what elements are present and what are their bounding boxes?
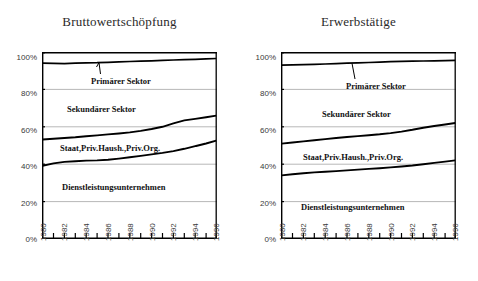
x-tick-1996-right: 1996 <box>451 223 460 241</box>
y-axis-labels-right: 0% 20% 40% 60% 80% 100% <box>239 52 279 239</box>
plot-area-left: Primärer Sektor Sekundärer Sektor Staat,… <box>42 52 217 239</box>
y-tick-80: 80% <box>21 89 37 98</box>
chart-figure: Bruttowertschöpfung 0% 20% 40% 60% 80% 1… <box>0 0 478 281</box>
x-tick-1996: 1996 <box>212 223 221 241</box>
x-tick-1992: 1992 <box>169 223 178 241</box>
band-label-staat-right: Staat,Priv.Haush.,Priv.Org. <box>303 152 403 162</box>
series-line-primaer-left <box>43 59 217 64</box>
band-label-primaerer-right: Primärer Sektor <box>346 81 406 91</box>
y-axis-labels-left: 0% 20% 40% 60% 80% 100% <box>0 52 40 239</box>
band-label-primaerer-left: Primärer Sektor <box>91 76 151 86</box>
series-line-staat-right <box>282 160 456 175</box>
y-tick-60-right: 60% <box>260 125 276 134</box>
band-label-staat-left: Staat,Priv.Haush.,Priv.Org. <box>60 143 160 153</box>
y-tick-60: 60% <box>21 125 37 134</box>
series-line-sekundaer-left <box>43 116 217 140</box>
x-tick-1982: 1982 <box>60 223 69 241</box>
x-tick-1992-right: 1992 <box>408 223 417 241</box>
chart-panel-erwerbstaetige: Erwerbstätige 0% 20% 40% 60% 80% 100% <box>239 0 478 281</box>
y-tick-0-right: 0% <box>264 235 276 244</box>
x-tick-1982-right: 1982 <box>299 223 308 241</box>
chart-panel-bruttowertschoepfung: Bruttowertschöpfung 0% 20% 40% 60% 80% 1… <box>0 0 239 281</box>
x-tick-1980: 1980 <box>38 223 47 241</box>
band-label-sekundaerer-right: Sekundärer Sektor <box>322 109 391 119</box>
series-line-primaer-right <box>282 60 456 65</box>
y-tick-40-right: 40% <box>260 162 276 171</box>
x-tick-1990-right: 1990 <box>386 223 395 241</box>
band-label-sekundaerer-left: Sekundärer Sektor <box>67 104 136 114</box>
x-tick-1994-right: 1994 <box>430 223 439 241</box>
x-tick-1988: 1988 <box>125 223 134 241</box>
y-tick-20-right: 20% <box>260 198 276 207</box>
series-line-sekundaer-right <box>282 123 456 144</box>
x-tick-1994: 1994 <box>191 223 200 241</box>
y-tick-20: 20% <box>21 198 37 207</box>
x-tick-1980-right: 1980 <box>277 223 286 241</box>
band-label-dienstleistung-left: Dienstleistungsunternehmen <box>62 182 165 192</box>
callout-leader-left <box>97 63 101 74</box>
band-label-dienstleistung-right: Dienstleistungsunternehmen <box>301 202 404 212</box>
callout-leader-right <box>352 63 355 79</box>
gridlines-right <box>281 89 456 201</box>
x-tick-1988-right: 1988 <box>364 223 373 241</box>
chart-title-right: Erwerbstätige <box>239 14 478 30</box>
y-tick-80-right: 80% <box>260 89 276 98</box>
y-tick-100: 100% <box>17 53 37 62</box>
x-tick-1986-right: 1986 <box>343 223 352 241</box>
x-tick-1986: 1986 <box>104 223 113 241</box>
y-tick-40: 40% <box>21 162 37 171</box>
x-tick-1990: 1990 <box>147 223 156 241</box>
y-tick-100-right: 100% <box>256 53 276 62</box>
x-tick-1984: 1984 <box>82 223 91 241</box>
y-tick-0: 0% <box>25 235 37 244</box>
x-axis-labels-right: 1980 1982 1984 1986 1988 1990 1992 1994 … <box>281 241 456 281</box>
x-axis-labels-left: 1980 1982 1984 1986 1988 1990 1992 1994 … <box>42 241 217 281</box>
plot-area-right: Primärer Sektor Sekundärer Sektor Staat,… <box>281 52 456 239</box>
chart-title-left: Bruttowertschöpfung <box>0 14 239 30</box>
x-tick-1984-right: 1984 <box>321 223 330 241</box>
